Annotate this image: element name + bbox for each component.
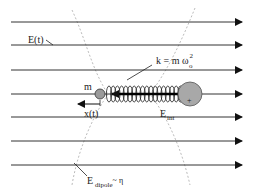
displacement-label: x(t) (84, 108, 98, 120)
dipole-field-curves (72, 8, 195, 185)
mass-label: m (84, 81, 92, 92)
diagram-canvas: + x(t) m E(t) k = m ω2o Eint Edipole~ η (0, 0, 253, 195)
e-field-label: E(t) (28, 34, 44, 46)
e-dipole-label: Edipole~ η (87, 175, 123, 189)
spring-constant-label: k = m ω2o (156, 52, 194, 70)
electron-mass (95, 89, 105, 99)
e-int-label: Eint (160, 108, 175, 122)
dipole-oscillator-diagram: + x(t) m E(t) k = m ω2o Eint Edipole~ η (0, 0, 253, 195)
e-field-leader (46, 40, 53, 45)
spring-constant-leader (127, 65, 152, 80)
plus-sign: + (187, 96, 192, 105)
